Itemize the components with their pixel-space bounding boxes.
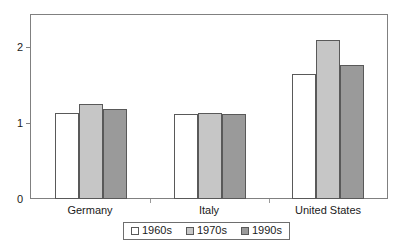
legend-swatch-icon-1960s [131, 227, 139, 235]
legend-label-1960s: 1960s [142, 225, 172, 236]
legend: 1960s 1970s 1990s [123, 222, 290, 240]
category-label-germany: Germany [67, 203, 112, 217]
legend-label-1990s: 1990s [252, 225, 282, 236]
y-tick-label-0: 0 [17, 194, 23, 205]
category-label-united-states: United States [295, 203, 361, 217]
bar-italy-1960s [174, 114, 198, 199]
bar-group-italy [150, 15, 269, 199]
bar-italy-1970s [198, 113, 222, 199]
bar-germany-1990s [103, 109, 127, 199]
y-tick-label-1: 1 [17, 118, 23, 129]
bar-united-states-1960s [292, 74, 316, 199]
legend-entry-1970s: 1970s [186, 225, 227, 236]
legend-entry-1990s: 1990s [241, 225, 282, 236]
legend-entry-1960s: 1960s [131, 225, 172, 236]
bar-group-united-states [269, 15, 387, 199]
y-tick-label-2: 2 [17, 42, 23, 53]
plot-area [31, 15, 387, 199]
bar-germany-1960s [55, 113, 79, 199]
y-axis: 2 1 0 [0, 0, 30, 250]
category-separator-2 [269, 199, 270, 203]
legend-swatch-icon-1970s [186, 227, 194, 235]
category-separator-1 [150, 199, 151, 203]
bar-united-states-1970s [316, 40, 340, 199]
bar-italy-1990s [222, 114, 246, 199]
bar-united-states-1990s [340, 65, 364, 199]
bar-germany-1970s [79, 104, 103, 199]
bar-group-germany [31, 15, 150, 199]
legend-swatch-icon-1990s [241, 227, 249, 235]
bar-chart-figure: 2 1 0 [0, 0, 406, 250]
category-label-italy: Italy [199, 203, 219, 217]
legend-label-1970s: 1970s [197, 225, 227, 236]
